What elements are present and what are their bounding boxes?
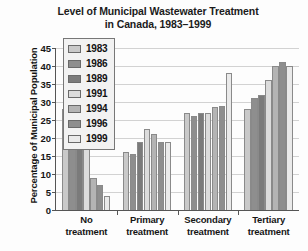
bar-1983-tertiary-treatment: [244, 109, 250, 210]
bar-1991-primary-treatment: [144, 129, 150, 210]
bar-1991-secondary-treatment: [205, 113, 211, 210]
chart-title-line-1: Level of Municipal Wastewater Treatment: [57, 5, 258, 17]
bar-1989-secondary-treatment: [198, 113, 204, 210]
chart-legend: 1983198619891991199419961999: [63, 38, 115, 150]
bar-1986-secondary-treatment: [191, 116, 197, 210]
y-axis-tick-label: 35: [40, 79, 51, 90]
y-axis-tick-mark: [52, 66, 56, 67]
y-axis-tick-label: 25: [40, 115, 51, 126]
x-axis-label-secondary-treatment: Secondarytreatment: [178, 214, 239, 237]
legend-item-1996[interactable]: 1996: [68, 117, 107, 131]
x-axis-label-line: treatment: [178, 226, 239, 238]
bar-group-tertiary-treatment: [244, 48, 292, 210]
bar-1983-secondary-treatment: [184, 113, 190, 210]
legend-label: 1983: [86, 44, 107, 54]
legend-swatch-icon: [68, 105, 81, 114]
bar-1989-tertiary-treatment: [258, 95, 264, 210]
legend-label: 1989: [86, 74, 107, 84]
bar-1989-primary-treatment: [137, 142, 143, 210]
y-axis-tick-label: 45: [40, 43, 51, 54]
bar-1991-tertiary-treatment: [265, 80, 271, 210]
bar-1999-tertiary-treatment: [286, 66, 292, 210]
legend-label: 1991: [86, 89, 107, 99]
x-axis-label-primary-treatment: Primarytreatment: [117, 214, 178, 237]
bar-1994-tertiary-treatment: [272, 66, 278, 210]
y-axis-tick-mark: [52, 120, 56, 121]
bar-1994-primary-treatment: [151, 134, 157, 210]
bar-1999-secondary-treatment: [226, 73, 232, 210]
x-axis-label-line: Primary: [117, 214, 178, 226]
bar-1991-no-treatment: [83, 142, 89, 210]
x-axis-label-line: Secondary: [178, 214, 239, 226]
bar-group-secondary-treatment: [184, 48, 232, 210]
y-axis-tick-mark: [52, 192, 56, 193]
x-axis-label-line: Tertiary: [238, 214, 299, 226]
legend-swatch-icon: [68, 120, 81, 129]
y-axis-tick-label: 15: [40, 151, 51, 162]
y-axis-tick-mark: [52, 210, 56, 211]
x-axis-label-line: treatment: [56, 226, 117, 238]
bar-1999-no-treatment: [104, 196, 110, 210]
x-axis-label-no-treatment: Notreatment: [56, 214, 117, 237]
y-axis-tick-mark: [52, 138, 56, 139]
y-axis-tick-label: 0: [46, 205, 51, 216]
bar-1986-tertiary-treatment: [251, 98, 257, 210]
bar-1999-primary-treatment: [165, 142, 171, 210]
bar-group-primary-treatment: [123, 48, 171, 210]
legend-item-1989[interactable]: 1989: [68, 72, 107, 86]
x-axis-label-line: treatment: [238, 226, 299, 238]
legend-label: 1996: [86, 119, 107, 129]
bar-1983-primary-treatment: [123, 152, 129, 210]
bar-1996-primary-treatment: [158, 142, 164, 210]
legend-swatch-icon: [68, 90, 81, 99]
bar-1994-secondary-treatment: [212, 107, 218, 210]
chart-title-line-2: in Canada, 1983–1999: [18, 18, 298, 31]
y-axis-title: Percentage of Municipal Population: [28, 36, 39, 216]
y-axis-tick-label: 40: [40, 61, 51, 72]
legend-item-1999[interactable]: 1999: [68, 132, 107, 146]
y-axis-tick-mark: [52, 156, 56, 157]
legend-label: 1986: [86, 59, 107, 69]
y-axis-tick-label: 5: [46, 187, 51, 198]
y-axis-tick-mark: [52, 174, 56, 175]
x-axis-label-tertiary-treatment: Tertiarytreatment: [238, 214, 299, 237]
legend-swatch-icon: [68, 75, 81, 84]
legend-swatch-icon: [68, 45, 81, 54]
bar-1996-secondary-treatment: [219, 106, 225, 210]
y-axis-tick-mark: [52, 102, 56, 103]
chart-title: Level of Municipal Wastewater Treatment …: [18, 5, 298, 30]
legend-swatch-icon: [68, 60, 81, 69]
legend-label: 1994: [86, 104, 107, 114]
bar-1986-primary-treatment: [130, 154, 136, 210]
y-axis-tick-mark: [52, 48, 56, 49]
legend-item-1986[interactable]: 1986: [68, 57, 107, 71]
y-axis-tick-label: 10: [40, 169, 51, 180]
wastewater-treatment-bar-chart: Level of Municipal Wastewater Treatment …: [0, 0, 308, 251]
legend-swatch-icon: [68, 135, 81, 144]
legend-item-1991[interactable]: 1991: [68, 87, 107, 101]
y-axis-tick-label: 30: [40, 97, 51, 108]
bar-1994-no-treatment: [90, 178, 96, 210]
x-axis-label-line: No: [56, 214, 117, 226]
bar-1996-no-treatment: [97, 185, 103, 210]
legend-label: 1999: [86, 134, 107, 144]
y-axis-tick-mark: [52, 84, 56, 85]
legend-item-1983[interactable]: 1983: [68, 42, 107, 56]
x-axis-label-line: treatment: [117, 226, 178, 238]
legend-item-1994[interactable]: 1994: [68, 102, 107, 116]
bar-1996-tertiary-treatment: [279, 62, 285, 210]
y-axis-tick-label: 20: [40, 133, 51, 144]
